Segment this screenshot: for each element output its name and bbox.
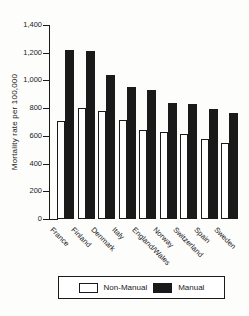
y-tick-label: 0 [11, 215, 42, 223]
y-tick-label: 800 [11, 104, 42, 112]
bar-non-manual-denmark [98, 111, 106, 219]
legend-swatch-manual [153, 283, 172, 293]
y-tick-mark [43, 164, 49, 165]
bar-manual-denmark [106, 75, 115, 219]
bar-non-manual-sweden [221, 143, 229, 219]
y-tick-label: 1,000 [11, 76, 42, 84]
legend-label-manual: Manual [178, 283, 204, 292]
bar-non-manual-france [57, 121, 65, 219]
bar-manual-france [65, 50, 74, 219]
bar-non-manual-spain [201, 139, 209, 219]
y-tick-label: 400 [11, 160, 42, 168]
bar-manual-finland [86, 51, 95, 219]
legend: Non-Manual Manual [58, 276, 225, 299]
y-tick-mark [43, 136, 49, 137]
bar-non-manual-england-wales [139, 130, 147, 219]
bar-manual-italy [127, 87, 136, 219]
y-tick-mark [43, 25, 49, 26]
bar-manual-sweden [229, 113, 238, 219]
bar-manual-spain [209, 109, 218, 219]
y-tick-label: 1,400 [11, 21, 42, 29]
bar-non-manual-switzerland [180, 134, 188, 219]
x-label-sweden: Sweden [212, 226, 237, 251]
y-tick-mark [43, 191, 49, 192]
legend-swatch-non-manual [79, 283, 98, 293]
y-axis-line [49, 25, 50, 220]
y-tick-label: 600 [11, 132, 42, 140]
x-label-italy: Italy [110, 226, 125, 241]
x-label-france: France [48, 226, 70, 248]
y-tick-mark [43, 219, 49, 220]
y-axis-title: Mortality rate per 100,000 [10, 74, 19, 170]
x-axis-baseline [49, 219, 58, 220]
y-tick-label: 200 [11, 187, 42, 195]
x-label-finland: Finland [69, 226, 92, 249]
legend-label-non-manual: Non-Manual [104, 283, 148, 292]
bar-non-manual-norway [160, 132, 168, 219]
mortality-bar-chart-figure: Mortality rate per 100,000 0200400600800… [0, 0, 249, 316]
y-tick-mark [43, 80, 49, 81]
bar-manual-norway [168, 103, 177, 219]
bar-manual-england-wales [147, 90, 156, 219]
bar-non-manual-italy [119, 120, 127, 219]
y-tick-label: 1,200 [11, 49, 42, 57]
y-tick-mark [43, 53, 49, 54]
bar-manual-switzerland [188, 104, 197, 219]
bar-non-manual-finland [78, 108, 86, 219]
y-tick-mark [43, 108, 49, 109]
